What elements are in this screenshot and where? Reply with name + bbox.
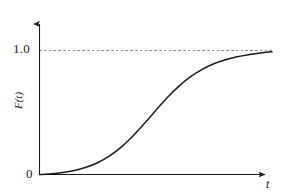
x-axis-label: t — [266, 178, 269, 190]
origin-label: 0 — [26, 167, 33, 180]
cdf-figure: 1.0 0 t F(t) — [0, 0, 283, 196]
plot-canvas — [0, 0, 283, 196]
y-axis-label: F(t) — [13, 81, 24, 121]
cdf-curve — [40, 52, 273, 175]
y-tick-label-1.0: 1.0 — [13, 42, 30, 55]
